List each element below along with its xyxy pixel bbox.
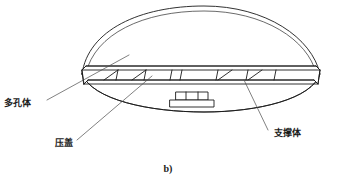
label-support-body: 支撑体: [273, 127, 302, 138]
filter-dome-diagram: 多孔体 压盖 支撑体 b): [0, 0, 337, 178]
figure-container: 多孔体 压盖 支撑体 b): [0, 0, 337, 178]
figure-caption: b): [164, 163, 173, 175]
hub-neck: [176, 92, 208, 100]
bottom-hub-assembly: [170, 92, 214, 107]
label-gland-cover: 压盖: [55, 137, 73, 148]
label-porous-body: 多孔体: [4, 97, 32, 108]
hub-foot-flange: [170, 100, 214, 107]
